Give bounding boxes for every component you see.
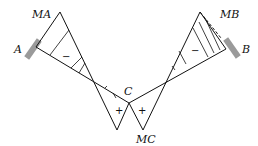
label-ma: MA — [31, 8, 51, 21]
label-mc: MC — [135, 133, 156, 146]
label-a: A — [13, 43, 22, 56]
label-c: C — [124, 85, 133, 98]
left-hatch — [50, 30, 116, 98]
right-positive-sign: + — [138, 105, 146, 116]
left-negative-sign: − — [62, 51, 70, 62]
diagram-canvas: − + + − MA A C MC MB B — [0, 0, 258, 146]
right-negative-sign: − — [191, 45, 199, 56]
left-positive-sign: + — [115, 105, 123, 116]
moment-diagram: − + + − MA A C MC MB B — [0, 0, 258, 146]
label-b: B — [241, 43, 250, 56]
right-dashed-edge — [200, 12, 221, 38]
label-mb: MB — [219, 8, 239, 21]
right-hatch — [172, 18, 220, 70]
beam-left — [36, 47, 129, 103]
beam-right — [129, 49, 226, 103]
